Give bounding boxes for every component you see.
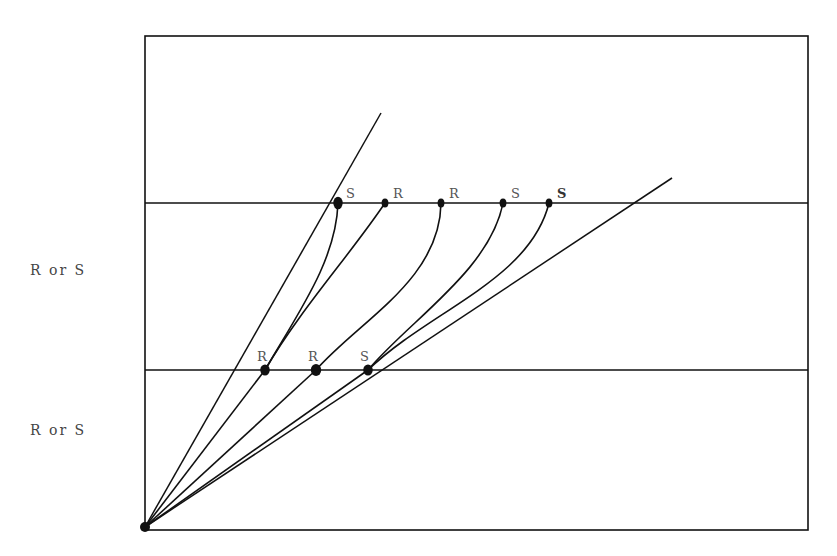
lower-point-label-2: R — [308, 349, 319, 364]
upper-point-2 — [382, 198, 389, 207]
upper-point-1 — [333, 197, 342, 210]
shallow-boundary-line — [145, 178, 672, 527]
upper-point-5 — [546, 198, 553, 207]
diagram-frame — [145, 36, 808, 530]
lower-point-label-3: S — [360, 349, 369, 364]
upper-point-label-4: S — [511, 186, 520, 201]
lower-point-3 — [363, 365, 373, 376]
lower-curve-R1-to-origin — [145, 370, 265, 527]
lower-point-label-1: R — [257, 349, 268, 364]
lower-point-1 — [260, 365, 270, 376]
lower-curve-S3-to-origin — [145, 370, 368, 527]
curve-R2-to-R1 — [265, 203, 385, 370]
steep-boundary-line — [145, 113, 381, 527]
stereochemistry-diagram: SRRSSRRS — [0, 0, 837, 556]
origin-point — [140, 522, 150, 532]
upper-point-label-2: R — [393, 186, 404, 201]
lower-point-2 — [311, 364, 321, 376]
lower-band-label: R or S — [30, 422, 86, 438]
upper-band-label: R or S — [30, 262, 86, 278]
upper-point-label-5: S — [557, 186, 566, 201]
lower-curve-R2-to-origin — [145, 370, 316, 527]
upper-point-label-1: S — [346, 186, 355, 201]
curve-S1-to-R1 — [265, 203, 338, 370]
upper-point-4 — [500, 198, 507, 207]
upper-point-label-3: R — [449, 186, 460, 201]
upper-point-3 — [438, 198, 445, 207]
curve-S5-to-S3 — [368, 203, 549, 370]
